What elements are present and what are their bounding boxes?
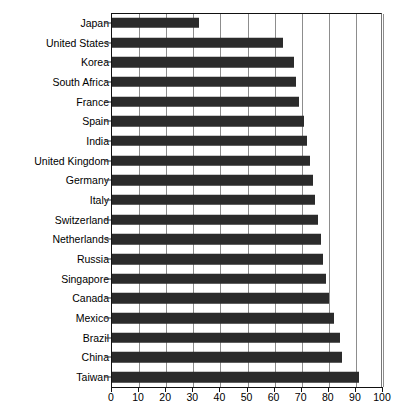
x-tick-label: 60	[259, 391, 289, 404]
category-tick-mark	[105, 140, 111, 141]
bar	[112, 175, 313, 186]
category-label: Germany	[66, 174, 109, 186]
category-tick-mark	[105, 180, 111, 181]
bar-row: Spain	[0, 111, 390, 131]
bar	[112, 195, 315, 206]
bar-row: Russia	[0, 249, 390, 269]
x-tick-label: 70	[286, 391, 316, 404]
category-tick-mark	[105, 318, 111, 319]
bar	[112, 77, 296, 88]
category-label: Singapore	[61, 273, 109, 285]
category-label: United States	[46, 37, 109, 49]
bar-row: Italy	[0, 190, 390, 210]
x-tick-label: 20	[150, 391, 180, 404]
x-tick-label: 30	[177, 391, 207, 404]
bar	[112, 155, 310, 166]
x-tick-label: 80	[313, 391, 343, 404]
category-tick-mark	[105, 62, 111, 63]
bar-rows: JapanUnited StatesKoreaSouth AfricaFranc…	[0, 13, 390, 387]
category-tick-mark	[105, 377, 111, 378]
category-tick-mark	[105, 357, 111, 358]
x-tick-label: 10	[123, 391, 153, 404]
bar-row: Netherlands	[0, 230, 390, 250]
category-tick-mark	[105, 160, 111, 161]
bar-row: Singapore	[0, 269, 390, 289]
bar-row: Japan	[0, 13, 390, 33]
bar	[112, 57, 294, 68]
category-tick-mark	[105, 337, 111, 338]
bar-row: France	[0, 92, 390, 112]
category-label: Mexico	[76, 312, 109, 324]
bar	[112, 116, 304, 127]
category-tick-mark	[105, 298, 111, 299]
bar-row: South Africa	[0, 72, 390, 92]
category-label: United Kingdom	[34, 155, 109, 167]
category-tick-mark	[105, 81, 111, 82]
bar	[112, 333, 340, 344]
bar	[112, 136, 307, 147]
category-label: Switzerland	[55, 214, 109, 226]
category-tick-mark	[105, 42, 111, 43]
x-tick-label: 0	[96, 391, 126, 404]
x-tick-label: 100	[367, 391, 396, 404]
category-tick-mark	[105, 219, 111, 220]
bar	[112, 293, 329, 304]
bar-row: China	[0, 348, 390, 368]
bar	[112, 254, 323, 265]
bar	[112, 234, 321, 245]
bar-row: United Kingdom	[0, 151, 390, 171]
bar	[112, 313, 334, 324]
bar	[112, 96, 299, 107]
category-tick-mark	[105, 22, 111, 23]
x-tick-label: 90	[340, 391, 370, 404]
x-tick-label: 50	[232, 391, 262, 404]
bar-row: Korea	[0, 52, 390, 72]
category-tick-mark	[105, 199, 111, 200]
category-tick-mark	[105, 101, 111, 102]
bar-row: India	[0, 131, 390, 151]
bar	[112, 18, 199, 29]
bar	[112, 372, 359, 383]
bar-row: Canada	[0, 289, 390, 309]
category-label: South Africa	[52, 76, 109, 88]
bar-row: United States	[0, 33, 390, 53]
bar-row: Brazil	[0, 328, 390, 348]
x-axis-tick-labels: 0102030405060708090100	[0, 391, 390, 407]
bar	[112, 214, 318, 225]
bar	[112, 273, 326, 284]
category-label: Canada	[72, 292, 109, 304]
bar-row: Germany	[0, 170, 390, 190]
category-label: Netherlands	[52, 233, 109, 245]
category-tick-mark	[105, 121, 111, 122]
bar-row: Taiwan	[0, 367, 390, 387]
bar	[112, 37, 283, 48]
category-tick-mark	[105, 278, 111, 279]
bar-row: Mexico	[0, 308, 390, 328]
category-tick-mark	[105, 259, 111, 260]
bar-row: Switzerland	[0, 210, 390, 230]
category-tick-mark	[105, 239, 111, 240]
x-tick-label: 40	[204, 391, 234, 404]
bar	[112, 352, 342, 363]
